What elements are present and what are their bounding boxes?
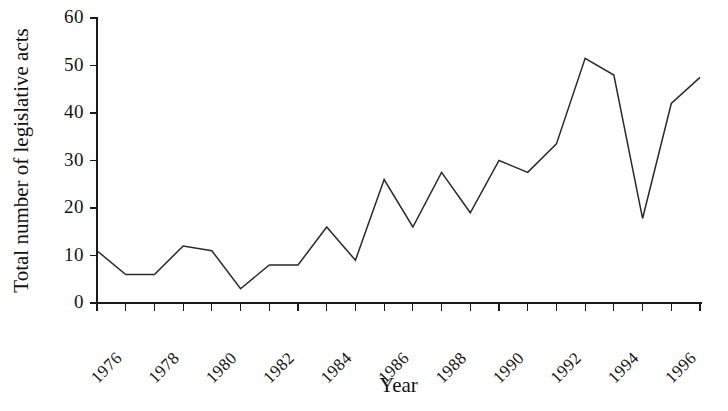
y-axis-tick-label: 20: [64, 196, 84, 217]
x-axis-tick-label: 1990: [489, 348, 528, 387]
data-series-line: [97, 58, 700, 288]
y-axis-tick-label: 10: [64, 244, 84, 265]
x-axis-tick-label: 1988: [432, 348, 471, 387]
x-axis-title: Year: [379, 373, 418, 397]
x-axis-tick-label: 1980: [202, 348, 241, 387]
x-axis-ticks: [97, 303, 700, 311]
y-axis-tick-label: 60: [64, 6, 84, 27]
y-axis-tick-label: 50: [64, 54, 84, 75]
x-axis-tick-label: 1982: [259, 348, 298, 387]
chart-canvas: 0102030405060 19761978198019821984198619…: [0, 0, 728, 411]
x-axis-tick-label: 1996: [661, 348, 700, 387]
x-axis-tick-label: 1992: [547, 348, 586, 387]
x-axis-tick-label: 1978: [145, 348, 184, 387]
y-axis-title: Total number of legislative acts: [9, 28, 33, 292]
y-axis-tick-label: 40: [64, 101, 84, 122]
x-axis-tick-label: 1976: [87, 348, 126, 387]
line-chart-figure: 0102030405060 19761978198019821984198619…: [0, 0, 728, 411]
x-axis-tick-label: 1994: [604, 348, 643, 387]
y-axis-tick-label: 0: [74, 291, 84, 312]
y-axis-tick-label: 30: [64, 149, 84, 170]
x-axis-tick-label: 1984: [317, 348, 356, 387]
y-axis-ticks: [90, 18, 97, 303]
y-axis-tick-labels: 0102030405060: [64, 6, 84, 312]
